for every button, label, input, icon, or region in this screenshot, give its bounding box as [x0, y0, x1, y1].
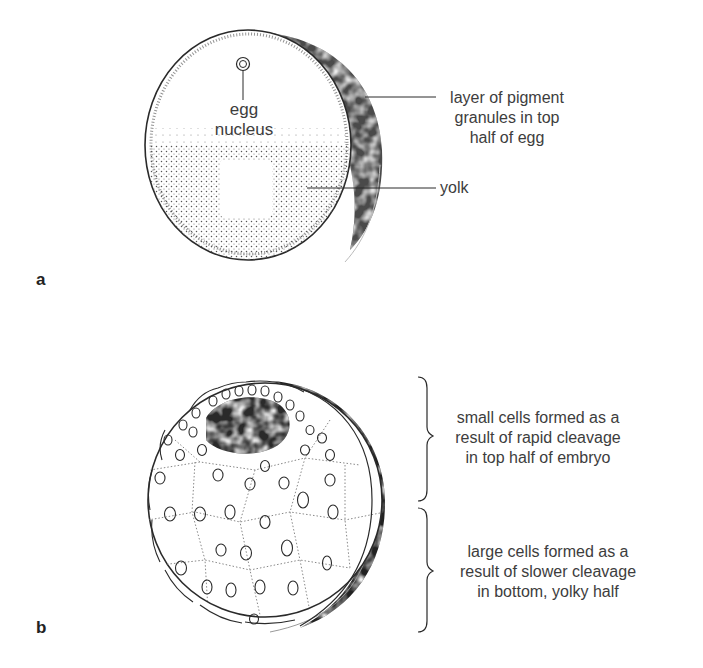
label-large-cells-line1: large cells formed as a — [438, 542, 658, 562]
panel-label-b: b — [36, 618, 46, 638]
label-pigment-line3: half of egg — [438, 128, 576, 148]
egg-a — [145, 30, 436, 265]
label-large-cells-line2: result of slower cleavage — [438, 562, 658, 582]
label-large-cells-line3: in bottom, yolky half — [438, 582, 658, 602]
label-pigment-line2: granules in top — [438, 108, 576, 128]
panel-label-a: a — [36, 270, 45, 290]
label-small-cells-line3: in top half of embryo — [438, 448, 638, 468]
label-yolk: yolk — [440, 178, 468, 198]
brace-bottom-icon — [418, 508, 433, 632]
embryo-b — [148, 381, 385, 632]
label-small-cells: small cells formed as a result of rapid … — [438, 408, 638, 468]
brace-top-icon — [418, 377, 433, 501]
label-small-cells-line1: small cells formed as a — [438, 408, 638, 428]
label-pigment-line1: layer of pigment — [438, 88, 576, 108]
label-egg-nucleus-line1: egg — [210, 100, 278, 120]
label-small-cells-line2: result of rapid cleavage — [438, 428, 638, 448]
label-egg-nucleus-line2: nucleus — [210, 120, 278, 140]
label-large-cells: large cells formed as a result of slower… — [438, 542, 658, 602]
label-pigment-layer: layer of pigment granules in top half of… — [438, 88, 576, 148]
label-egg-nucleus: egg nucleus — [210, 100, 278, 140]
